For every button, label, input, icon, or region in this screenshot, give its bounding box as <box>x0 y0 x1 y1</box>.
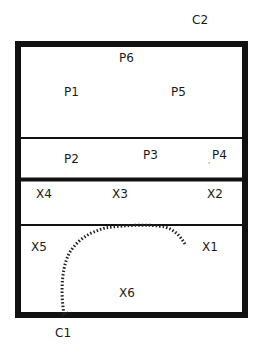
label-p6: P6 <box>119 51 134 65</box>
p4-marker: , <box>208 157 210 165</box>
label-x5: X5 <box>31 240 47 254</box>
label-p5: P5 <box>171 85 186 99</box>
diagram-canvas: , C2 C1 P6 P1 P5 P2 P3 P4 X4 X3 X2 X5 X1… <box>0 0 259 353</box>
label-p4: P4 <box>212 148 227 162</box>
label-x6: X6 <box>119 286 135 300</box>
label-p3: P3 <box>143 148 158 162</box>
label-x2: X2 <box>207 187 223 201</box>
hatched-curve <box>62 225 185 314</box>
label-x3: X3 <box>112 187 128 201</box>
label-c1: C1 <box>55 326 71 340</box>
label-p2: P2 <box>64 152 79 166</box>
label-x4: X4 <box>36 187 52 201</box>
label-p1: P1 <box>64 85 79 99</box>
label-c2: C2 <box>192 13 208 27</box>
label-x1: X1 <box>202 240 218 254</box>
